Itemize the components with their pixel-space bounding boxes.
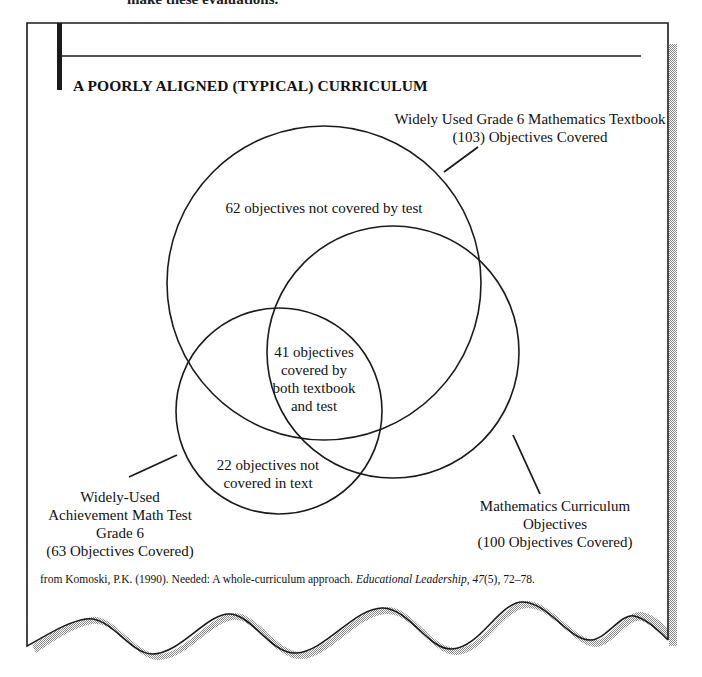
textbook-label-line2: (103) Objectives Covered (380, 128, 680, 146)
torn-edge-shadow (32, 601, 677, 660)
overlap-line4: and test (254, 397, 374, 415)
test-label-line1: Widely-Used (30, 488, 210, 506)
curriculum-label-line1: Mathematics Curriculum (460, 497, 650, 515)
curriculum-leader-line (513, 435, 540, 494)
test-label-line4: (63 Objectives Covered) (30, 542, 210, 560)
citation-journal: Educational Leadership (356, 573, 467, 585)
textbook-leader-line (444, 147, 478, 172)
heading-bar (57, 23, 62, 90)
curriculum-set-label: Mathematics Curriculum Objectives (100 O… (460, 497, 650, 551)
test-set-label: Widely-Used Achievement Math Test Grade … (30, 488, 210, 560)
test-leader-line (129, 455, 177, 477)
test-only-line1: 22 objectives not (198, 456, 338, 474)
citation-prefix: from Komoski, P.K. (1990). Needed: A who… (40, 573, 356, 585)
figure-title: A POORLY ALIGNED (TYPICAL) CURRICULUM (73, 77, 428, 95)
textbook-set-label: Widely Used Grade 6 Mathematics Textbook… (380, 110, 680, 146)
citation: from Komoski, P.K. (1990). Needed: A who… (40, 573, 535, 585)
test-only-region-label: 22 objectives not covered in text (198, 456, 338, 492)
textbook-only-line1: 62 objectives not covered by test (194, 199, 454, 217)
citation-volume: 47 (472, 573, 484, 585)
test-only-line2: covered in text (198, 474, 338, 492)
overlap-line3: both textbook (254, 379, 374, 397)
test-label-line2: Achievement Math Test (30, 506, 210, 524)
overlap-line1: 41 objectives (254, 343, 374, 361)
textbook-label-line1: Widely Used Grade 6 Mathematics Textbook (380, 110, 680, 128)
test-label-line3: Grade 6 (30, 524, 210, 542)
curriculum-label-line3: (100 Objectives Covered) (460, 533, 650, 551)
overlap-line2: covered by (254, 361, 374, 379)
citation-rest: (5), 72–78. (484, 573, 535, 585)
overlap-region-label: 41 objectives covered by both textbook a… (254, 343, 374, 415)
curriculum-label-line2: Objectives (460, 515, 650, 533)
textbook-only-region-label: 62 objectives not covered by test (194, 199, 454, 217)
